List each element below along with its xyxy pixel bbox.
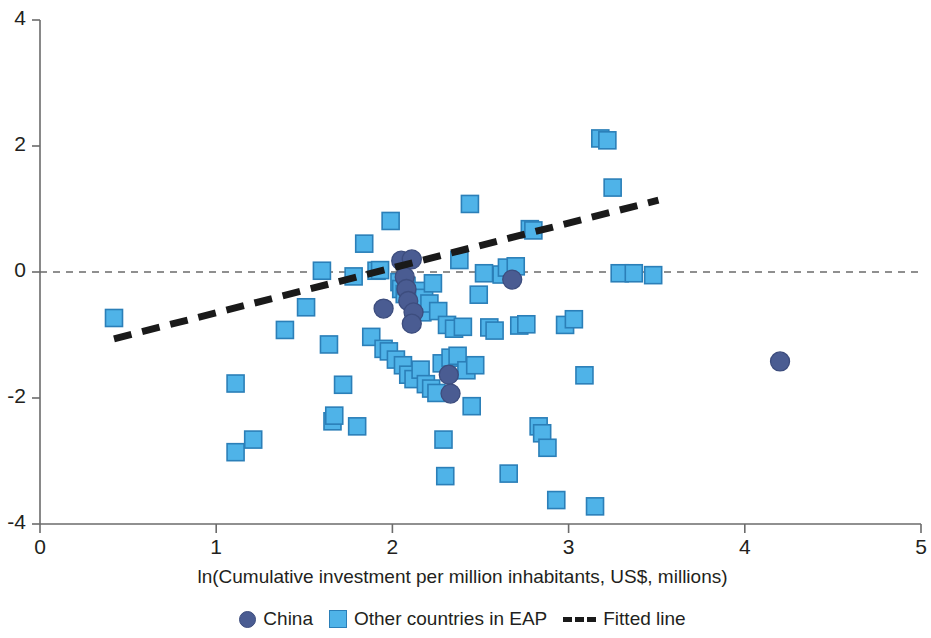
data-point-other-eap xyxy=(335,376,352,393)
data-point-other-eap xyxy=(227,444,244,461)
data-point-other-eap xyxy=(461,195,478,212)
x-axis-title: ln(Cumulative investment per million inh… xyxy=(0,566,925,588)
data-point-other-eap xyxy=(587,498,604,515)
data-point-china xyxy=(402,314,421,333)
data-point-other-eap xyxy=(645,267,662,284)
x-tick-label: 2 xyxy=(372,535,412,559)
data-point-china xyxy=(439,365,458,384)
data-point-other-eap xyxy=(245,431,262,448)
data-point-other-eap xyxy=(486,322,503,339)
data-point-other-eap xyxy=(576,367,593,384)
data-point-other-eap xyxy=(565,311,582,328)
dashed-line-icon xyxy=(563,617,596,622)
data-point-other-eap xyxy=(604,179,621,196)
y-tick-label: 0 xyxy=(0,258,26,282)
data-point-other-eap xyxy=(320,336,337,353)
data-point-other-eap xyxy=(424,275,441,292)
data-point-china xyxy=(374,299,393,318)
data-point-other-eap xyxy=(518,316,535,333)
data-point-other-eap xyxy=(106,309,123,326)
x-tick-label: 5 xyxy=(901,535,931,559)
y-tick-label: 2 xyxy=(0,132,26,156)
data-point-other-eap xyxy=(349,418,366,435)
legend-label-fitted-line: Fitted line xyxy=(603,608,685,630)
legend-label-other-eap: Other countries in EAP xyxy=(354,608,547,630)
other-eap-marker-icon xyxy=(329,610,347,628)
data-point-other-eap xyxy=(500,465,517,482)
data-point-other-eap xyxy=(539,439,556,456)
data-point-other-eap xyxy=(548,492,565,509)
data-point-other-eap xyxy=(599,132,616,149)
data-point-other-eap xyxy=(437,468,454,485)
data-points xyxy=(106,130,790,515)
data-point-other-eap xyxy=(276,321,293,338)
data-point-other-eap xyxy=(454,318,471,335)
legend-item-fitted-line: Fitted line xyxy=(563,608,685,630)
data-point-other-eap xyxy=(625,265,642,282)
data-point-other-eap xyxy=(435,431,452,448)
data-point-other-eap xyxy=(476,265,493,282)
data-point-other-eap xyxy=(470,286,487,303)
x-tick-label: 4 xyxy=(725,535,765,559)
data-point-other-eap xyxy=(382,212,399,229)
y-tick-label: -2 xyxy=(0,384,26,408)
legend-item-china: China xyxy=(239,608,313,630)
data-point-china xyxy=(441,384,460,403)
chart-legend: China Other countries in EAP Fitted line xyxy=(0,608,925,630)
legend-label-china: China xyxy=(263,608,313,630)
x-tick-label: 3 xyxy=(549,535,589,559)
data-point-other-eap xyxy=(227,375,244,392)
data-point-other-eap xyxy=(463,398,480,415)
china-marker-icon xyxy=(239,611,256,628)
data-point-china xyxy=(503,270,522,289)
legend-item-other-eap: Other countries in EAP xyxy=(329,608,547,630)
y-tick-label: 4 xyxy=(0,6,26,30)
data-point-other-eap xyxy=(467,357,484,374)
x-tick-label: 0 xyxy=(20,535,60,559)
data-point-china xyxy=(771,352,790,371)
data-point-other-eap xyxy=(298,299,315,316)
data-point-other-eap xyxy=(326,407,343,424)
y-tick-label: -4 xyxy=(0,510,26,534)
data-point-other-eap xyxy=(356,235,373,252)
data-point-other-eap xyxy=(313,262,330,279)
x-tick-label: 1 xyxy=(196,535,236,559)
